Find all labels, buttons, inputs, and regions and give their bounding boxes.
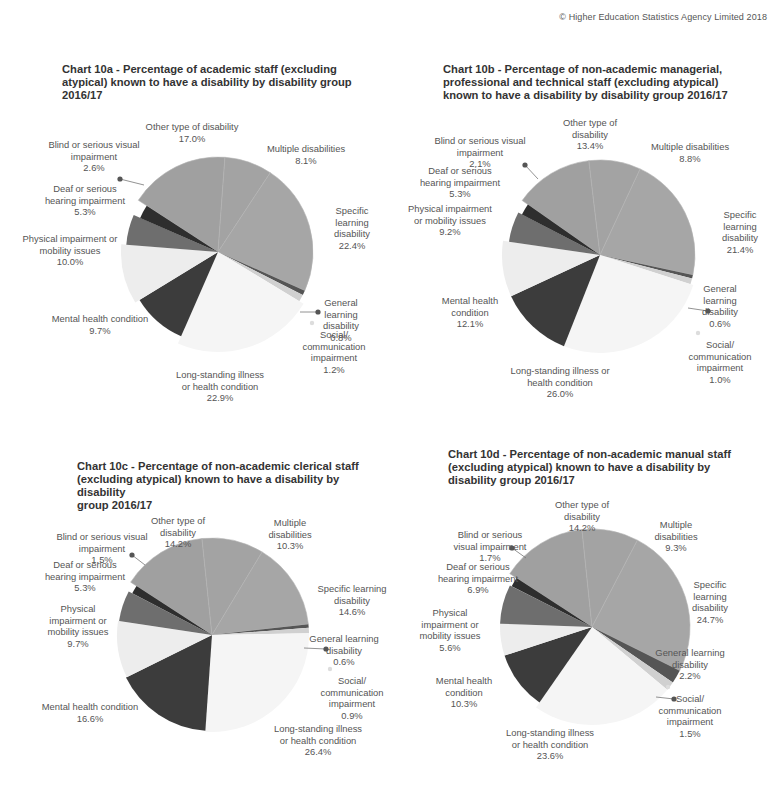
slice-value: 1.7% <box>454 552 527 564</box>
slice-label-text: Blind or serious visual <box>48 139 139 151</box>
slice-label-text: impairment <box>688 362 751 374</box>
slice-label-physical: Physicalimpairment ormobility issues9.7% <box>48 603 109 649</box>
slice-value: 22.9% <box>176 392 264 404</box>
slice-label-text: Social/ <box>320 675 383 687</box>
social-marker-icon <box>666 685 670 689</box>
slice-label-text: Specific learning <box>318 583 387 595</box>
slice-label-text: Other type of <box>151 515 205 527</box>
slice-label-text: disability <box>722 232 758 244</box>
slice-label-specific: Specific learningdisability14.6% <box>318 583 387 618</box>
slice-label-text: hearing impairment <box>438 573 518 585</box>
slice-value: 9.7% <box>48 638 109 650</box>
slice-label-text: disability <box>563 129 617 141</box>
slice-label-text: condition <box>436 687 492 699</box>
slice-label-social: Social/communicationimpairment1.5% <box>658 693 721 739</box>
slice-label-text: disabilities <box>654 531 697 543</box>
slice-label-multiple: Multipledisabilities9.3% <box>654 519 697 554</box>
slice-label-text: Physical <box>420 607 481 619</box>
slice-value: 5.3% <box>45 206 125 218</box>
slice-value: 2.1% <box>434 158 525 170</box>
slice-label-blind: Blind or serious visualimpairment1.5% <box>56 531 147 566</box>
slice-value: 10.0% <box>23 256 118 268</box>
slice-label-social: Social/communicationimpairment1.0% <box>688 339 751 385</box>
slice-label-physical: Physical impairment ormobility issues10.… <box>23 233 118 268</box>
slice-label-text: Mental health condition <box>42 701 138 713</box>
slice-label-deaf: Deaf or serioushearing impairment6.9% <box>438 561 518 596</box>
slice-label-text: Other type of disability <box>146 121 239 133</box>
slice-label-specific: Specificlearningdisability22.4% <box>334 205 370 251</box>
pie-slice-longstanding <box>205 633 309 732</box>
slice-value: 1.2% <box>302 364 365 376</box>
slice-label-text: Mental health condition <box>52 313 148 325</box>
slice-label-mental: Mental healthcondition10.3% <box>436 675 492 710</box>
slice-value: 22.4% <box>334 240 370 252</box>
slice-label-text: learning <box>334 217 370 229</box>
slice-label-text: Specific <box>692 579 728 591</box>
slice-label-longstanding: Long-standing illnessor health condition… <box>176 369 264 404</box>
slice-value: 13.4% <box>563 140 617 152</box>
slice-label-social: Social/communicationimpairment0.9% <box>320 675 383 721</box>
slice-label-general: Generallearningdisability0.6% <box>702 283 738 329</box>
slice-label-text: General learning <box>655 647 724 659</box>
slice-label-text: Specific <box>334 205 370 217</box>
slice-label-text: Multiple disabilities <box>267 143 345 155</box>
slice-label-social: Social/communicationimpairment1.2% <box>302 329 365 375</box>
slice-label-text: disability <box>151 527 205 539</box>
slice-label-longstanding: Long-standing illness orhealth condition… <box>510 365 609 400</box>
slice-value: 9.2% <box>408 226 492 238</box>
slice-label-physical: Physical impairmentor mobility issues9.2… <box>408 203 492 238</box>
slice-label-blind: Blind or seriousvisual impairment1.7% <box>454 529 527 564</box>
slice-label-text: learning <box>702 295 738 307</box>
slice-label-text: Physical <box>48 603 109 615</box>
slice-label-text: Social/ <box>688 339 751 351</box>
slice-label-other: Other type ofdisability14.2% <box>151 515 205 550</box>
slice-value: 23.6% <box>506 750 594 762</box>
slice-value: 6.9% <box>438 584 518 596</box>
slice-value: 0.9% <box>320 710 383 722</box>
slice-label-text: Multiple <box>654 519 697 531</box>
slice-label-text: disability <box>309 645 378 657</box>
slice-label-text: Blind or serious visual <box>434 135 525 147</box>
slice-label-text: Social/ <box>302 329 365 341</box>
slice-value: 5.3% <box>420 188 500 200</box>
slice-label-text: Mental health <box>436 675 492 687</box>
slice-value: 14.2% <box>555 522 609 534</box>
slice-label-text: mobility issues <box>23 245 118 257</box>
chart-10a: Chart 10a - Percentage of academic staff… <box>0 55 390 415</box>
slice-label-general: General learningdisability0.6% <box>309 633 378 668</box>
slice-value: 2.2% <box>655 670 724 682</box>
slice-label-text: condition <box>442 307 498 319</box>
social-marker-icon <box>696 331 700 335</box>
slice-label-text: Blind or serious <box>454 529 527 541</box>
slice-label-text: communication <box>302 341 365 353</box>
slice-label-text: disability <box>655 659 724 671</box>
slice-label-other: Other type of disability17.0% <box>146 121 239 144</box>
slice-label-mental: Mental healthcondition12.1% <box>442 295 498 330</box>
slice-label-text: visual impairment <box>454 541 527 553</box>
slice-label-physical: Physicalimpairment ormobility issues5.6% <box>420 607 481 653</box>
slice-label-text: disability <box>555 511 609 523</box>
slice-value: 1.5% <box>658 728 721 740</box>
leader-dot-icon <box>315 309 320 314</box>
slice-label-text: Blind or serious visual <box>56 531 147 543</box>
slice-value: 14.6% <box>318 606 387 618</box>
slice-label-text: Long-standing illness <box>506 727 594 739</box>
slice-value: 26.0% <box>510 388 609 400</box>
slice-label-longstanding: Long-standing illnessor health condition… <box>506 727 594 762</box>
slice-label-mental: Mental health condition9.7% <box>52 313 148 336</box>
slice-value: 1.5% <box>56 554 147 566</box>
slice-label-text: disability <box>692 602 728 614</box>
slice-label-text: disability <box>318 595 387 607</box>
leader-dot-icon <box>117 176 122 181</box>
slice-label-text: hearing impairment <box>420 177 500 189</box>
slice-label-text: Deaf or serious <box>45 183 125 195</box>
slice-value: 10.3% <box>268 540 311 552</box>
slice-label-text: communication <box>688 351 751 363</box>
slice-label-text: or health condition <box>274 735 362 747</box>
slice-label-mental: Mental health condition16.6% <box>42 701 138 724</box>
slice-label-text: Other type of <box>555 499 609 511</box>
chart-10c: Chart 10c - Percentage of non-academic c… <box>0 435 390 793</box>
slice-value: 2.6% <box>48 162 139 174</box>
slice-value: 10.3% <box>436 698 492 710</box>
slice-label-multiple: Multiple disabilities8.1% <box>267 143 345 166</box>
